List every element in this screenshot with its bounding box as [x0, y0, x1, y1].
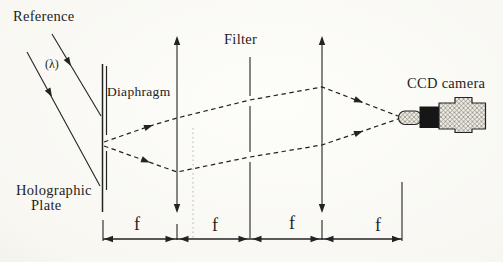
optical-setup-figure: f f f f Reference (λ) Diaphragm Filter C… [0, 0, 503, 262]
signal-ray-upper-arrow-right-icon [353, 96, 364, 105]
dim-arrow-icon [239, 236, 248, 242]
camera-mount [420, 107, 440, 129]
ccd-camera-drawing [399, 98, 486, 133]
signal-rays [104, 87, 398, 172]
lens-1-down-arrow-icon [174, 204, 180, 213]
dim-arrow-icon [104, 236, 113, 242]
lens-2-down-arrow-icon [319, 204, 325, 213]
lens-1 [174, 36, 180, 213]
signal-ray-upper-arrow-left-icon [143, 122, 154, 131]
holographic-plate-label-line1: Holographic [16, 182, 92, 198]
focal-length-label-3: f [289, 213, 295, 233]
reference-beam-lower [27, 52, 100, 186]
diaphragm-label: Diaphragm [107, 84, 171, 99]
ccd-camera-label: CCD camera [407, 75, 486, 91]
lens-1-up-arrow-icon [174, 36, 180, 45]
optical-setup-diagram: f f f f Reference (λ) Diaphragm Filter C… [0, 0, 503, 262]
dim-arrow-icon [253, 236, 262, 242]
focal-length-label-1: f [134, 214, 140, 234]
reference-beam-lower-arrow-icon [45, 88, 55, 99]
holographic-plate-label: Holographic Plate [16, 182, 92, 213]
reference-label: Reference [13, 8, 74, 24]
signal-ray-lower-arrow-left-icon [140, 156, 151, 165]
filter-label: Filter [224, 31, 257, 47]
reference-beam-upper-arrow-icon [64, 57, 74, 68]
dim-arrow-icon [180, 236, 189, 242]
reference-beams [27, 34, 101, 186]
focal-length-label-4: f [375, 215, 381, 235]
holographic-plate-group [103, 64, 107, 212]
holographic-plate-label-line2: Plate [31, 197, 62, 213]
dim-arrow-icon [325, 236, 334, 242]
signal-ray-lower-arrow-right-icon [353, 128, 364, 137]
wavelength-label: (λ) [45, 57, 59, 71]
lens-2 [319, 36, 325, 213]
dim-arrow-icon [166, 236, 175, 242]
focal-length-label-2: f [212, 215, 218, 235]
lens-2-up-arrow-icon [319, 36, 325, 45]
reference-beam-upper [52, 34, 101, 116]
dimension-scale: f f f f [103, 182, 402, 242]
camera-body [439, 98, 486, 133]
camera-lens-barrel [399, 111, 422, 125]
dim-arrow-icon [311, 236, 320, 242]
dim-arrow-icon [392, 236, 401, 242]
